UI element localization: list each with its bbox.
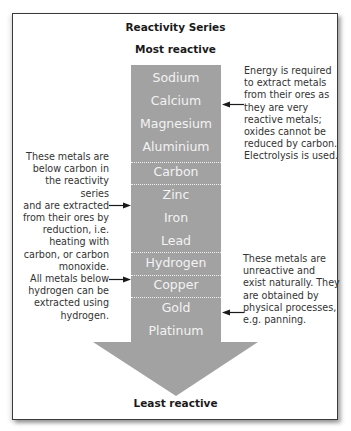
note-native-metals: These metals are unreactive and exist na… [243,253,340,326]
metal-lead: Lead [131,233,221,249]
metal-hydrogen: Hydrogen [131,255,221,271]
metal-gold: Gold [131,300,221,316]
note-line: are obtained by [243,290,340,302]
arrow-right-icon [109,276,131,283]
note-line: extracted using [14,297,109,309]
note-carbon-reduction: These metals are below carbon in the rea… [14,151,109,273]
arrow-right-icon [109,202,131,209]
note-line: reactive metals; [244,114,338,126]
note-line: they are very [244,102,338,114]
note-line: All metals below [14,273,109,285]
metal-platinum: Platinum [131,323,221,339]
note-line: exist naturally. They [243,277,340,289]
note-line: from their ores as [244,89,338,101]
note-line: These metals are [243,253,340,265]
metal-calcium: Calcium [131,93,221,109]
metal-iron: Iron [131,210,221,226]
note-line: carbon, or carbon [14,249,109,261]
note-line: from their ores by [14,212,109,224]
metal-sodium: Sodium [131,70,221,86]
note-line: These metals are [14,151,109,163]
divider-carbon-bottom [131,184,221,185]
note-line: physical processes, [243,302,340,314]
note-line: and are extracted [14,200,109,212]
note-line: hydrogen. [14,310,109,322]
metal-carbon: Carbon [131,164,221,180]
note-line: below carbon in [14,163,109,175]
note-line: the reactivity series [14,175,109,199]
least-reactive-label: Least reactive [0,397,351,409]
note-line: monoxide. [14,261,109,273]
note-line: Electrolysis is used. [244,150,338,162]
note-electrolysis: Energy is required to extract metals fro… [244,65,338,163]
metal-magnesium: Magnesium [131,116,221,132]
note-line: unreactive and [243,265,340,277]
divider-copper-gold [131,297,221,298]
note-line: to extract metals [244,77,338,89]
note-line: heating with [14,236,109,248]
note-hydrogen: All metals below hydrogen can be extract… [14,273,109,322]
metal-aluminium: Aluminium [131,139,221,155]
note-line: reduction, i.e. [14,224,109,236]
note-line: oxides cannot be [244,126,338,138]
divider-carbon-top [131,162,221,163]
divider-hydrogen-bottom [131,275,221,276]
note-line: Energy is required [244,65,338,77]
divider-hydrogen-top [131,252,221,253]
note-line: reduced by carbon. [244,138,338,150]
note-line: hydrogen can be [14,285,109,297]
arrow-left-icon [222,101,244,108]
arrow-left-icon [222,309,244,316]
metal-zinc: Zinc [131,187,221,203]
metal-copper: Copper [131,277,221,293]
note-line: e.g. panning. [243,314,340,326]
